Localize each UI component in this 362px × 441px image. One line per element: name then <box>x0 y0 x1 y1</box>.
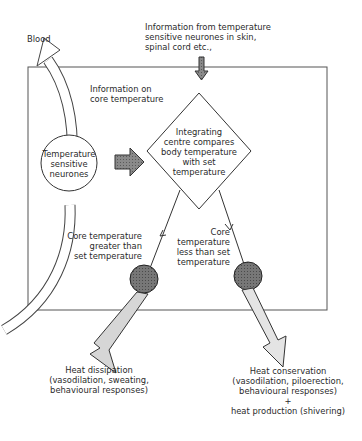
less-than-label: Core temperature less than set temperatu… <box>168 227 230 267</box>
effector-greater-circle <box>130 265 158 293</box>
input-down-arrow-icon <box>195 57 208 80</box>
effector-less-circle <box>234 262 262 290</box>
heat-conservation-label: Heat conservation (vasodilation, piloere… <box>218 366 358 416</box>
heat-dissipation-label: Heat dissipation (vasodilation, sweating… <box>34 365 164 395</box>
neurones-label: Temperature sensitive neurones <box>41 149 97 179</box>
core-info-label: Information on core temperature <box>90 84 163 104</box>
core-info-arrow-icon <box>115 148 144 176</box>
heat-dissipation-arrow-icon <box>90 292 148 373</box>
input-label: Information from temperature sensitive n… <box>145 22 271 52</box>
heat-conservation-arrow-icon <box>242 288 286 367</box>
greater-than-label: Core temperature greater than set temper… <box>60 231 142 261</box>
blood-label: Blood <box>27 34 51 44</box>
integrating-centre-label: Integrating centre compares body tempera… <box>152 127 246 177</box>
